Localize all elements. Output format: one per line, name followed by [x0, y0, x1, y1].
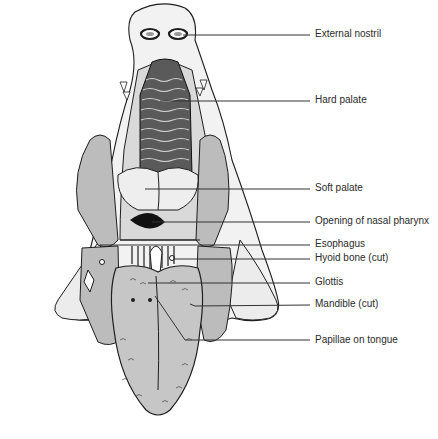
label-hyoid-bone-cut: Hyoid bone (cut) [315, 252, 388, 264]
label-glottis: Glottis [315, 276, 343, 288]
label-esophagus: Esophagus [315, 238, 365, 250]
label-opening-of-nasal-pharynx: Opening of nasal pharynx [315, 215, 429, 227]
label-external-nostril: External nostril [315, 28, 381, 40]
anatomy-figure: External nostril Hard palate Soft palate… [0, 0, 438, 439]
label-mandible-cut: Mandible (cut) [315, 298, 378, 310]
label-papillae-on-tongue: Papillae on tongue [315, 334, 398, 346]
left-maxilla-shaded [77, 135, 119, 247]
label-soft-palate: Soft palate [315, 182, 363, 194]
left-hyoid-cut [100, 260, 105, 265]
label-hard-palate: Hard palate [315, 94, 367, 106]
